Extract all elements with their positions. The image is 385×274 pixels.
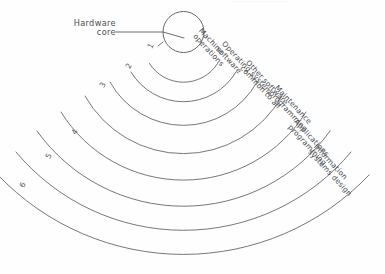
ring-arc-2 <box>131 72 236 102</box>
ring-arc-3 <box>110 82 257 125</box>
ring-arc-6 <box>37 131 330 206</box>
ring-arc-1 <box>150 64 218 83</box>
ring-1-tick <box>158 42 163 46</box>
ring-arc-4 <box>85 96 282 154</box>
ring-arc-7 <box>16 152 351 230</box>
hardware-core-label: Hardware core <box>44 19 116 37</box>
onion-layer-diagram: ................................. Hardwa… <box>0 0 385 274</box>
ring-arc-5 <box>61 112 306 180</box>
hardware-core-leader-line <box>116 32 184 38</box>
